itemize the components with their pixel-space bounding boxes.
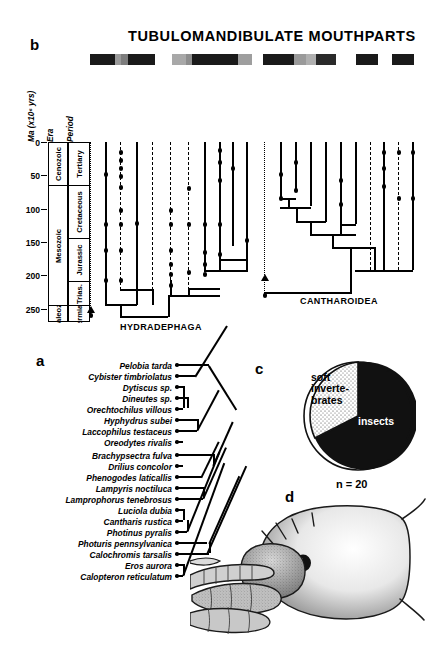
- species-label: Calochromis tarsalis: [90, 551, 172, 559]
- fossil-node: [104, 278, 109, 283]
- fossil-node: [169, 222, 174, 227]
- fossil-node: [203, 272, 208, 277]
- fossil-node: [119, 248, 124, 253]
- clade-root-join: [264, 292, 352, 294]
- clade-stem: [219, 259, 221, 271]
- lineage-haliplidae: [136, 142, 138, 222]
- species-label: Lampyris noctiluca: [96, 485, 172, 493]
- era-cell-paleozoic: Paleoz.: [49, 306, 67, 323]
- species-label: Orechtochilus villous: [87, 406, 172, 414]
- clade-stem: [296, 207, 298, 221]
- species-label: Cantharis rustica: [104, 518, 172, 526]
- state-bar-4: [356, 54, 378, 65]
- fossil-node: [218, 160, 223, 165]
- branch: [177, 364, 209, 366]
- period-cell-triassic: Trias.: [69, 282, 89, 306]
- fossil-node: [411, 196, 416, 201]
- tick-mark-100: [41, 209, 47, 210]
- fossil-node: [169, 262, 174, 267]
- fossil-node: [119, 278, 124, 283]
- fossil-node: [263, 293, 268, 298]
- pie-label-insects: insects: [358, 416, 394, 427]
- branch-node: [187, 397, 189, 408]
- fossil-node: [203, 250, 208, 255]
- fossil-node: [382, 184, 387, 189]
- lineage-homalisidae: [355, 142, 357, 224]
- clade-stem: [136, 221, 138, 305]
- clade-stem: [152, 289, 154, 305]
- lineage-trachypacheidae: [152, 142, 153, 290]
- species-label: Photinus pyralis: [107, 529, 172, 537]
- fossil-node: [187, 270, 192, 275]
- fossil-node: [119, 158, 124, 163]
- lineage-drilidae: [325, 142, 327, 222]
- panel-letter-a: a: [36, 352, 44, 369]
- fossil-node: [339, 178, 344, 183]
- fossil-node: [169, 248, 174, 253]
- group-label-hydradephaga: HYDRADEPHAGA: [120, 322, 202, 332]
- lineage-hygrobiidae: [232, 142, 234, 246]
- lineage-carabidae: [120, 142, 121, 290]
- tick-mark-50: [41, 175, 47, 176]
- tick-mark-250: [41, 309, 47, 310]
- period-label-permian: Permian: [75, 306, 84, 323]
- geologic-timescale: Cenozoic Mesozoic Paleoz. Tertiary Creta…: [48, 142, 90, 322]
- palp-tip: [190, 558, 220, 565]
- axis-label-era: Era: [45, 129, 55, 142]
- group-label-cantharoidea: CANTHAROIDEA: [300, 296, 378, 306]
- era-cell-cenozoic: Cenozoic: [49, 143, 67, 186]
- branch: [177, 487, 203, 489]
- species-label: Dytiscus sp.: [123, 384, 172, 392]
- period-label-tertiary: Tertiary: [75, 150, 84, 177]
- species-label: Drilius concolor: [108, 463, 172, 471]
- clade-join: [340, 224, 356, 226]
- tick-label-100: 100: [16, 205, 40, 215]
- backbone-branch: [208, 365, 237, 410]
- species-label: Calopteron reticulatum: [80, 573, 172, 581]
- clade-join: [188, 288, 220, 290]
- fossil-node: [203, 262, 208, 267]
- tick-label-250: 250: [16, 305, 40, 315]
- period-label-triassic: Trias.: [75, 284, 84, 304]
- branch: [177, 419, 197, 421]
- beetle-head-illustration: [190, 495, 427, 650]
- clade-stem: [374, 247, 376, 271]
- backbone-branch: [196, 390, 219, 431]
- fossil-node: [382, 150, 387, 155]
- clade-join: [120, 289, 153, 291]
- branch: [177, 441, 183, 443]
- era-cell-mesozoic: Mesozoic: [49, 186, 67, 306]
- tick-mark-200: [41, 275, 47, 276]
- state-bar-5: [392, 54, 414, 65]
- branch: [177, 454, 213, 456]
- fossil-node: [218, 252, 223, 257]
- branch: [177, 476, 201, 478]
- pie-sample-size: n = 20: [336, 478, 368, 490]
- fossil-node: [169, 208, 174, 213]
- era-label-paleozoic: Paleoz.: [54, 306, 63, 323]
- tick-mark-0: [41, 142, 47, 143]
- timescale-era-column: Cenozoic Mesozoic Paleoz.: [48, 142, 68, 322]
- period-cell-cretaceous: Cretaceous: [69, 186, 89, 239]
- species-label: Oreodytes rivalis: [104, 439, 172, 447]
- lineage-brachypsectridae: [412, 142, 414, 270]
- clade-stem: [340, 204, 342, 236]
- figure-title: TUBULOMANDIBULATE MOUTHPARTS: [128, 28, 418, 44]
- fossil-node: [218, 222, 223, 227]
- fossil-node: [119, 222, 124, 227]
- clade-stem: [246, 241, 248, 271]
- species-label: Pelobia tarda: [119, 362, 172, 370]
- species-label: Photuris pennsylvanica: [78, 540, 172, 548]
- tick-label-50: 50: [16, 171, 40, 181]
- species-label: Cybister timbriolatus: [88, 373, 172, 381]
- species-label: Dineutes sp.: [122, 395, 172, 403]
- clade-join: [219, 259, 246, 261]
- lineage-telegeusidae: [310, 142, 312, 206]
- fossil-node: [294, 188, 299, 193]
- lineage-parahygrobiidae: [246, 142, 248, 242]
- branch-node: [183, 509, 185, 520]
- tick-label-200: 200: [16, 271, 40, 281]
- period-cell-tertiary: Tertiary: [69, 143, 89, 186]
- fossil-node: [119, 208, 124, 213]
- fossil-node: [382, 166, 387, 171]
